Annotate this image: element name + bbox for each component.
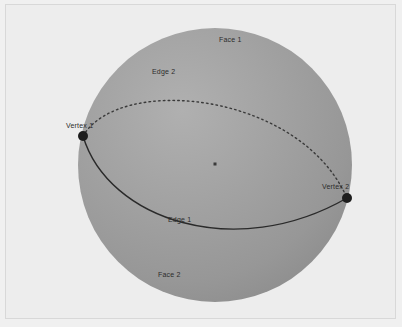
label-vertex-2: Vertex 2 <box>322 183 349 190</box>
label-face-1: Face 1 <box>219 36 242 43</box>
vertex-2-dot <box>342 193 352 203</box>
label-edge-2: Edge 2 <box>152 68 175 75</box>
sphere-diagram-canvas <box>0 0 402 327</box>
label-edge-1: Edge 1 <box>168 216 191 223</box>
label-face-2: Face 2 <box>158 271 181 278</box>
vertex-1-dot <box>78 131 88 141</box>
sphere-topology-figure: Face 1 Edge 2 Vertex 1 Vertex 2 Edge 1 F… <box>0 0 402 327</box>
center-dot <box>214 163 217 166</box>
label-vertex-1: Vertex 1 <box>66 122 93 129</box>
